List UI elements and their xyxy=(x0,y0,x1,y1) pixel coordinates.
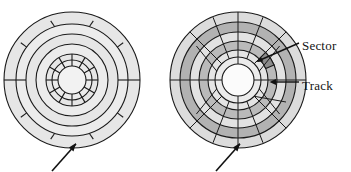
track-label: Track xyxy=(302,78,333,94)
left-disk xyxy=(4,12,140,171)
disk-geometry-figure xyxy=(0,0,351,172)
left-disk-hub xyxy=(58,66,86,94)
right-disk-hub xyxy=(222,64,254,96)
right-disk xyxy=(170,12,306,171)
sector-label: Sector xyxy=(302,38,336,54)
